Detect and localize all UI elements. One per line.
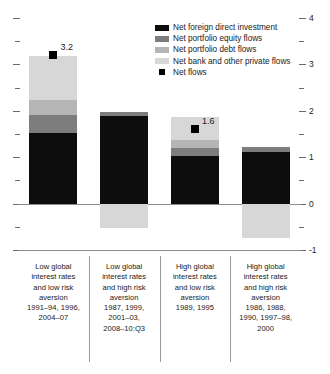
category-text-line: and low risk <box>21 283 86 293</box>
y-axis-tick-right-major <box>299 157 306 158</box>
category-text-line: aversion <box>233 293 298 303</box>
category-text-line: 1990, 1997–98, <box>233 313 298 323</box>
category-text-line: interest rates <box>233 272 298 282</box>
category-text-line: Low global <box>21 262 86 272</box>
y-axis-tick-left-minor <box>15 180 20 181</box>
category-text-line: interest rates <box>92 272 157 282</box>
category-text-line: 1989, 1995 <box>163 303 228 313</box>
category-cell: High globalinterest ratesand high riskav… <box>230 256 301 368</box>
y-axis-label: 1 <box>309 153 314 162</box>
legend-item: Net portfolio equity flows <box>155 33 290 44</box>
net-flows-marker-label: 3.2 <box>60 43 73 52</box>
stacked-bar-chart: 43210-1 3.21.6 Net foreign direct invest… <box>0 0 330 374</box>
y-axis-tick-left-minor <box>15 134 20 135</box>
legend-item-label: Net bank and other private flows <box>173 56 290 67</box>
net-flows-marker-label: 1.6 <box>202 117 215 126</box>
y-axis-label: 3 <box>309 60 314 69</box>
category-text-line: and high risk <box>92 283 157 293</box>
y-axis-tick-right-minor <box>299 88 304 89</box>
net-flows-marker <box>191 125 199 133</box>
legend-swatch-icon <box>155 36 169 42</box>
y-axis-label: 4 <box>309 14 314 23</box>
y-axis-tick-left-minor <box>15 227 20 228</box>
y-axis-tick-left-major <box>13 157 20 158</box>
y-axis-tick-right-minor <box>299 41 304 42</box>
category-text-line: and high risk <box>233 283 298 293</box>
bar-segment <box>29 100 77 116</box>
y-axis-tick-left-major <box>13 64 20 65</box>
bar-segment <box>29 115 77 133</box>
bar-segment <box>29 133 77 204</box>
legend-item: Net bank and other private flows <box>155 56 290 67</box>
category-text-line: 1987, 1999, <box>92 303 157 313</box>
legend-swatch-icon <box>155 25 169 31</box>
y-axis-tick-right-major <box>299 18 306 19</box>
category-label-table: Low globalinterest ratesand low riskaver… <box>18 256 301 368</box>
bar-segment <box>242 204 290 238</box>
bar-segment <box>171 148 219 156</box>
bar-segment <box>100 204 148 228</box>
y-axis-tick-right-major <box>299 111 306 112</box>
legend-swatch-icon <box>155 58 169 64</box>
category-text-line: High global <box>233 262 298 272</box>
category-text-line: High global <box>163 262 228 272</box>
bar-segment <box>171 156 219 203</box>
category-text-line: aversion <box>163 293 228 303</box>
bar-segment <box>100 112 148 117</box>
y-axis-tick-left-major <box>13 18 20 19</box>
y-axis-tick-left-major <box>13 111 20 112</box>
y-axis-tick-right-minor <box>299 180 304 181</box>
legend-item-label: Net flows <box>173 67 207 78</box>
category-text-line: aversion <box>92 293 157 303</box>
y-axis-tick-right-major <box>299 64 306 65</box>
y-axis-label: 2 <box>309 107 314 116</box>
bar-segment <box>242 147 290 152</box>
legend-item: Net flows <box>155 67 290 78</box>
category-text-line: 1986, 1988, <box>233 303 298 313</box>
bar-segment <box>100 116 148 203</box>
category-text-line: interest rates <box>163 272 228 282</box>
y-axis-label: -1 <box>309 246 317 255</box>
legend-item-label: Net foreign direct investment <box>173 22 277 33</box>
y-axis-tick-left-minor <box>15 41 20 42</box>
category-cell: High globalinterest ratesand low riskave… <box>160 256 231 368</box>
chart-legend: Net foreign direct investmentNet portfol… <box>155 22 290 78</box>
category-text-line: Low global <box>92 262 157 272</box>
legend-item: Net foreign direct investment <box>155 22 290 33</box>
category-cell: Low globalinterest ratesand high riskave… <box>89 256 160 368</box>
bar-segment <box>171 140 219 147</box>
category-text-line: and low risk <box>163 283 228 293</box>
y-axis-tick-right-minor <box>299 134 304 135</box>
y-axis-tick-left-minor <box>15 88 20 89</box>
legend-item-label: Net portfolio equity flows <box>173 33 262 44</box>
bar-segment <box>242 152 290 204</box>
category-text-line: 1991–94, 1996, <box>21 303 86 313</box>
bar-segment <box>29 56 77 100</box>
category-text-line: 2004–07 <box>21 313 86 323</box>
category-text-line: 2000 <box>233 324 298 334</box>
net-flows-marker <box>49 51 57 59</box>
y-axis-tick-right-minor <box>299 227 304 228</box>
category-text-line: 2001–03, <box>92 313 157 323</box>
category-text-line: interest rates <box>21 272 86 282</box>
legend-item: Net portfolio debt flows <box>155 44 290 55</box>
category-cell: Low globalinterest ratesand low riskaver… <box>18 256 89 368</box>
category-text-line: 2008–10:Q3 <box>92 324 157 334</box>
legend-swatch-icon <box>155 47 169 53</box>
y-axis-label: 0 <box>309 200 314 209</box>
category-text-line: aversion <box>21 293 86 303</box>
legend-item-label: Net portfolio debt flows <box>173 44 256 55</box>
legend-swatch-icon <box>159 69 165 75</box>
